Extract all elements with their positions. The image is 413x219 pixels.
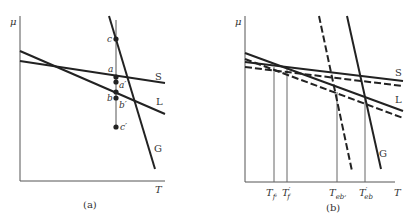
curve-l-dashed — [245, 59, 403, 118]
point-label-c-prime: c′ — [120, 122, 127, 132]
panel-caption: (b) — [326, 202, 340, 213]
x-axis-label: T — [155, 184, 163, 195]
point-b-prime — [113, 95, 118, 100]
point-a — [113, 74, 118, 79]
panel-caption: (a) — [83, 199, 97, 210]
svg-text:Teb,: Teb, — [329, 187, 347, 201]
curve-s-solid — [245, 62, 403, 81]
svg-text:T′f: T′f — [282, 186, 291, 201]
tick-label-t-eb-prime: T′eb — [359, 186, 373, 201]
point-label-b: b — [107, 93, 113, 103]
curve-label-g: G — [379, 148, 387, 159]
curve-label-s: S — [395, 67, 402, 78]
point-c-prime — [113, 124, 118, 129]
curve-label-l: L — [156, 96, 163, 107]
point-label-a-prime: a′ — [119, 80, 126, 90]
point-label-b-prime: b′ — [119, 100, 127, 110]
curve-s — [20, 61, 165, 83]
point-label-c: c — [107, 34, 112, 44]
curve-label-l: L — [395, 94, 402, 105]
panel-b: μ T (b) S L G Tf, T′f Teb, T′eb — [235, 16, 403, 213]
point-c — [113, 36, 118, 41]
x-axis-label: T — [394, 187, 402, 198]
curve-l — [20, 51, 165, 114]
y-axis-label: μ — [10, 16, 17, 27]
curve-s-dashed — [245, 67, 403, 86]
svg-text:T′eb: T′eb — [359, 186, 373, 201]
point-label-a: a — [108, 64, 113, 74]
tick-label-t-f: Tf, — [266, 187, 277, 201]
point-a-prime — [113, 79, 118, 84]
svg-text:Tf,: Tf, — [266, 187, 277, 201]
tick-label-t-eb: Teb, — [329, 187, 347, 201]
panel-a: μ T (a) S L G c a a′ b b′ c′ — [10, 16, 165, 210]
curve-label-g: G — [154, 143, 162, 154]
curve-l-solid — [245, 53, 403, 111]
point-b — [113, 89, 118, 94]
y-axis-label: μ — [235, 16, 242, 27]
phase-diagram-figure: μ T (a) S L G c a a′ b b′ c′ μ T (b) — [0, 0, 413, 219]
tick-label-t-f-prime: T′f — [282, 186, 291, 201]
curve-label-s: S — [155, 71, 162, 82]
